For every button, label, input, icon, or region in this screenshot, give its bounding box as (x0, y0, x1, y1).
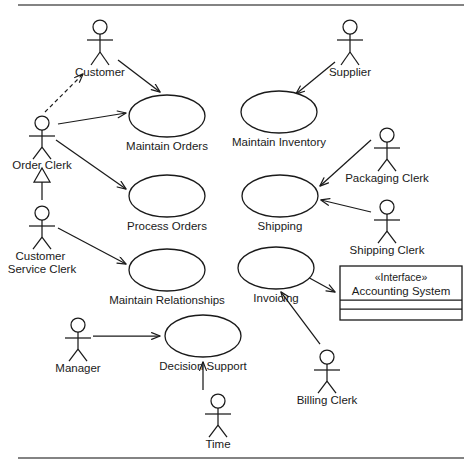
actor-order-clerk[interactable]: Order Clerk (12, 116, 72, 171)
use-case-label: Invoicing (253, 292, 298, 304)
interface-stereotype: «Interface» (375, 271, 428, 283)
use-case-maintain-relationships[interactable]: Maintain Relationships (109, 249, 225, 306)
actor-label: Shipping Clerk (350, 244, 425, 256)
actor-label: Billing Clerk (297, 394, 358, 406)
relationship-customer-service-clerk-generalizes-order-clerk[interactable] (34, 168, 50, 200)
actor-supplier[interactable]: Supplier (329, 20, 371, 78)
use-case-shipping[interactable]: Shipping (242, 175, 318, 232)
use-case-maintain-inventory[interactable]: Maintain Inventory (232, 91, 326, 148)
use-case-process-orders[interactable]: Process Orders (127, 175, 207, 232)
interface-name: Accounting System (352, 285, 450, 297)
actor-label: Customer Service Clerk (8, 250, 77, 275)
use-case-maintain-orders[interactable]: Maintain Orders (126, 95, 208, 152)
use-case-label: Maintain Orders (126, 140, 208, 152)
actor-label: Customer (75, 66, 125, 78)
actor-packaging-clerk[interactable]: Packaging Clerk (345, 128, 429, 184)
use-case-label: Shipping (258, 220, 303, 232)
actor-label-line-1: Customer (15, 250, 65, 262)
use-case-diagram: Maintain Orders Maintain Inventory Proce… (0, 0, 470, 470)
actor-label: Manager (55, 362, 101, 374)
actor-label: Time (205, 438, 230, 450)
actor-customer-service-clerk[interactable]: Customer Service Clerk (8, 206, 77, 275)
actor-label: Packaging Clerk (345, 172, 429, 184)
actor-customer[interactable]: Customer (75, 20, 125, 78)
use-case-label: Maintain Inventory (232, 136, 326, 148)
actor-label: Order Clerk (12, 159, 72, 171)
actor-billing-clerk[interactable]: Billing Clerk (297, 350, 358, 406)
actor-label: Supplier (329, 66, 371, 78)
use-case-invoicing[interactable]: Invoicing (238, 247, 314, 304)
actor-shipping-clerk[interactable]: Shipping Clerk (350, 200, 425, 256)
use-case-label: Process Orders (127, 220, 207, 232)
diagram-canvas: Maintain Orders Maintain Inventory Proce… (0, 0, 470, 470)
actor-label-line-2: Service Clerk (8, 263, 77, 275)
use-case-label: Decision Support (159, 360, 247, 372)
use-case-decision-support[interactable]: Decision Support (159, 315, 247, 372)
actor-time[interactable]: Time (205, 394, 231, 450)
relationship-order-clerk-to-maintain-orders[interactable] (58, 113, 126, 124)
interface-accounting-system[interactable]: «Interface» Accounting System (340, 266, 462, 320)
use-case-label: Maintain Relationships (109, 294, 225, 306)
actor-manager[interactable]: Manager (55, 318, 101, 374)
relationship-shipping-clerk-to-shipping[interactable] (321, 200, 371, 212)
relationship-order-clerk-to-customer-dependency[interactable] (45, 74, 83, 112)
